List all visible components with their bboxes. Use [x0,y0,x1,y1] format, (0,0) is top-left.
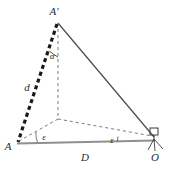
angle-arc-epsilon-right [118,137,119,142]
tripod-leg-right [154,139,163,149]
figure-container: A' A O d D α ε ε [0,0,169,170]
label-angle-alpha: α [50,51,55,61]
label-angle-epsilon-left: ε [42,132,46,142]
label-point-O: O [151,151,159,163]
label-point-A: A [4,140,12,152]
dashed-foot-to-O [58,119,152,136]
label-angle-epsilon-right: ε [110,135,114,145]
line-apex-to-O [58,23,154,137]
label-segment-d: d [24,81,30,93]
label-segment-D: D [80,151,89,163]
label-point-apex: A' [48,5,59,17]
angle-arc-epsilon-left [36,132,38,142]
survey-diagram: A' A O d D α ε ε [0,0,169,170]
